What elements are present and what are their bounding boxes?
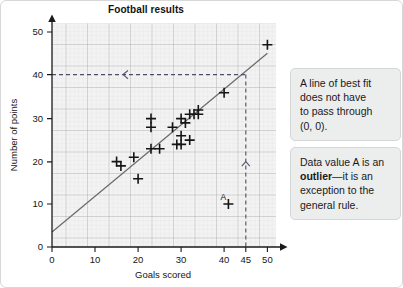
y-axis-title: Number of points bbox=[8, 99, 19, 172]
worksheet-page: Football results bbox=[0, 0, 403, 288]
callout-outlier-part1: Data value A is an bbox=[300, 156, 384, 168]
scatter-plot-svg: A 0 10 20 30 40 50 bbox=[1, 1, 291, 288]
x-axis-title: Goals scored bbox=[135, 269, 191, 280]
svg-text:10: 10 bbox=[32, 198, 43, 209]
svg-text:45: 45 bbox=[241, 254, 252, 265]
svg-text:20: 20 bbox=[32, 156, 43, 167]
svg-text:50: 50 bbox=[262, 254, 273, 265]
svg-text:30: 30 bbox=[176, 254, 187, 265]
svg-text:30: 30 bbox=[32, 113, 43, 124]
callout-best-fit-line2: does not have bbox=[300, 91, 366, 103]
callout-best-fit-line1: A line of best fit bbox=[300, 77, 371, 89]
svg-text:20: 20 bbox=[133, 254, 144, 265]
callout-best-fit-line4: (0, 0). bbox=[300, 120, 327, 132]
callout-outlier-emphasis: outlier bbox=[300, 170, 332, 182]
callout-outlier: Data value A is an outlier—it is an exce… bbox=[290, 147, 401, 220]
scatter-chart-figure: Football results bbox=[1, 1, 291, 288]
y-axis-ticks bbox=[47, 32, 52, 247]
callout-best-fit-line3: to pass through bbox=[300, 105, 372, 117]
svg-text:10: 10 bbox=[90, 254, 101, 265]
svg-text:40: 40 bbox=[32, 69, 43, 80]
y-axis-tick-labels: 0 10 20 30 40 50 bbox=[32, 26, 43, 252]
x-axis-tick-labels: 0 10 20 30 40 45 50 bbox=[49, 254, 272, 265]
svg-text:50: 50 bbox=[32, 26, 43, 37]
outlier-point-label: A bbox=[221, 192, 227, 202]
svg-text:0: 0 bbox=[38, 241, 43, 252]
svg-text:40: 40 bbox=[219, 254, 230, 265]
x-axis-ticks bbox=[52, 247, 267, 252]
plot-grid bbox=[52, 23, 276, 247]
svg-text:0: 0 bbox=[49, 254, 54, 265]
callout-best-fit: A line of best fit does not have to pass… bbox=[290, 68, 401, 141]
